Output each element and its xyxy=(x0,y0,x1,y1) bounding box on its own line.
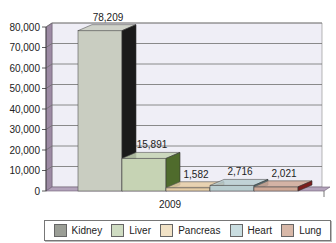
legend-item-liver: Liver xyxy=(111,224,151,237)
legend-item-heart: Heart xyxy=(230,224,272,237)
legend-swatch-lung xyxy=(281,224,294,237)
bar-chart: 010,00020,00030,00040,00050,00060,00070,… xyxy=(0,0,336,215)
legend-item-pancreas: Pancreas xyxy=(160,224,220,237)
data-label: 2,716 xyxy=(227,166,252,177)
legend-label: Kidney xyxy=(72,225,103,236)
svg-text:0: 0 xyxy=(34,186,40,197)
x-category-label: 2009 xyxy=(159,199,182,210)
legend-label: Liver xyxy=(129,225,151,236)
legend-label: Heart xyxy=(248,225,272,236)
y-axis: 010,00020,00030,00040,00050,00060,00070,… xyxy=(9,22,46,197)
legend-swatch-heart xyxy=(230,224,243,237)
data-label: 1,582 xyxy=(183,169,208,180)
data-label: 15,891 xyxy=(137,139,168,150)
svg-text:20,000: 20,000 xyxy=(9,145,40,156)
data-label: 2,021 xyxy=(271,168,296,179)
legend-swatch-pancreas xyxy=(160,224,173,237)
legend-item-kidney: Kidney xyxy=(54,224,103,237)
svg-text:60,000: 60,000 xyxy=(9,63,40,74)
legend-item-lung: Lung xyxy=(281,224,321,237)
svg-text:50,000: 50,000 xyxy=(9,83,40,94)
svg-text:40,000: 40,000 xyxy=(9,104,40,115)
svg-text:80,000: 80,000 xyxy=(9,22,40,33)
svg-text:10,000: 10,000 xyxy=(9,165,40,176)
legend-swatch-kidney xyxy=(54,224,67,237)
legend-label: Lung xyxy=(299,225,321,236)
legend-label: Pancreas xyxy=(178,225,220,236)
svg-text:70,000: 70,000 xyxy=(9,42,40,53)
legend: Kidney Liver Pancreas Heart Lung xyxy=(44,220,331,241)
svg-text:30,000: 30,000 xyxy=(9,124,40,135)
legend-swatch-liver xyxy=(111,224,124,237)
data-label: 78,209 xyxy=(93,12,124,23)
